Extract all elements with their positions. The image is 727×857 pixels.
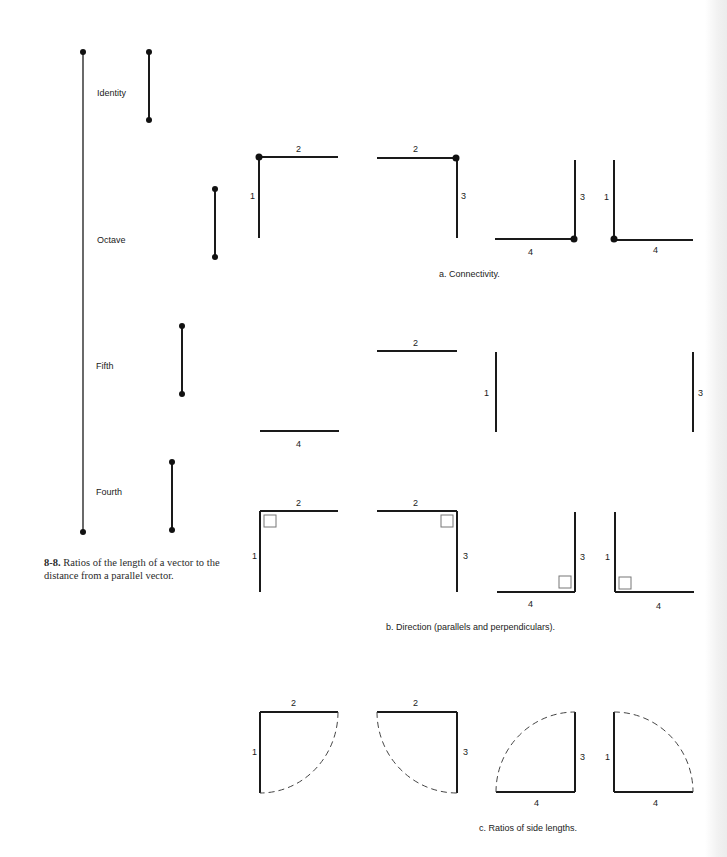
panel-caption: a. Connectivity. bbox=[439, 269, 500, 279]
panel-separate-segments: 2 4 1 3 bbox=[260, 338, 703, 449]
svg-text:1: 1 bbox=[605, 752, 610, 762]
svg-text:4: 4 bbox=[534, 798, 539, 808]
svg-text:2: 2 bbox=[413, 144, 418, 154]
right-angle-3-4: 3 4 bbox=[497, 512, 585, 609]
corner-2-3: 2 3 bbox=[377, 144, 466, 238]
right-angle-2-3: 2 3 bbox=[377, 498, 468, 592]
svg-text:1: 1 bbox=[252, 747, 257, 757]
svg-text:1: 1 bbox=[252, 551, 257, 561]
svg-text:4: 4 bbox=[656, 601, 661, 611]
svg-text:2: 2 bbox=[413, 698, 418, 708]
quarter-1-2: 2 1 bbox=[252, 698, 338, 793]
svg-text:3: 3 bbox=[461, 191, 466, 201]
interval-fourth: Fourth bbox=[96, 459, 175, 533]
svg-text:2: 2 bbox=[296, 498, 301, 508]
svg-text:1: 1 bbox=[604, 192, 609, 202]
interval-label: Fourth bbox=[96, 487, 122, 497]
book-page: Identity Octave Fifth Fourth bbox=[0, 0, 727, 857]
panel-caption: b. Direction (parallels and perpendicula… bbox=[386, 622, 555, 632]
svg-text:3: 3 bbox=[463, 551, 468, 561]
svg-text:2: 2 bbox=[291, 698, 296, 708]
svg-text:3: 3 bbox=[463, 747, 468, 757]
interval-octave: Octave bbox=[97, 186, 218, 260]
right-angle-1-4: 1 4 bbox=[605, 512, 694, 611]
svg-text:2: 2 bbox=[296, 144, 301, 154]
interval-label: Fifth bbox=[96, 361, 114, 371]
svg-text:1: 1 bbox=[605, 552, 610, 562]
figure-canvas: Identity Octave Fifth Fourth bbox=[0, 0, 727, 857]
interval-fifth: Fifth bbox=[96, 323, 185, 397]
svg-text:4: 4 bbox=[528, 599, 533, 609]
figure-caption-text: Ratios of the length of a vector to the … bbox=[44, 557, 220, 581]
svg-text:4: 4 bbox=[296, 439, 301, 449]
svg-text:1: 1 bbox=[250, 191, 255, 201]
figure-caption: 8-8. Ratios of the length of a vector to… bbox=[44, 557, 244, 582]
svg-text:1: 1 bbox=[484, 388, 489, 398]
interval-label: Identity bbox=[97, 88, 127, 98]
interval-identity: Identity bbox=[97, 49, 152, 123]
corner-1-4: 1 4 bbox=[604, 160, 693, 255]
right-angle-1-2: 2 1 bbox=[252, 498, 338, 592]
svg-text:2: 2 bbox=[413, 498, 418, 508]
quarter-3-4: 3 4 bbox=[496, 712, 585, 808]
svg-text:4: 4 bbox=[653, 798, 658, 808]
svg-text:4: 4 bbox=[528, 247, 533, 257]
quarter-1-4: 1 4 bbox=[605, 712, 693, 808]
quarter-2-3: 2 3 bbox=[377, 698, 468, 793]
reference-vector bbox=[80, 49, 86, 535]
corner-1-2: 2 1 bbox=[250, 144, 338, 238]
svg-text:3: 3 bbox=[580, 752, 585, 762]
svg-text:3: 3 bbox=[580, 192, 585, 202]
svg-text:4: 4 bbox=[653, 245, 658, 255]
panel-a-connectivity: 2 1 2 3 3 4 bbox=[250, 144, 693, 279]
panel-caption: c. Ratios of side lengths. bbox=[479, 823, 577, 833]
svg-text:3: 3 bbox=[580, 552, 585, 562]
interval-label: Octave bbox=[97, 235, 126, 245]
corner-3-4: 3 4 bbox=[495, 160, 585, 257]
panel-c-ratios: 2 1 2 3 3 4 1 4 bbox=[252, 698, 693, 833]
panel-b-direction: 2 1 2 3 3 4 1 4 bbox=[252, 498, 694, 632]
svg-text:2: 2 bbox=[413, 338, 418, 348]
svg-text:3: 3 bbox=[698, 388, 703, 398]
figure-number: 8-8. bbox=[44, 557, 61, 568]
